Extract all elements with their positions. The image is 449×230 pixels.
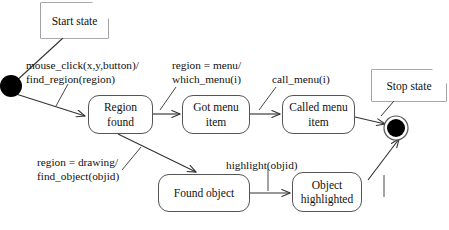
initial-state-node[interactable] xyxy=(0,75,22,97)
transition-label-region-found-to-got-menu-item: region = menu/ which_menu(i) xyxy=(172,58,241,86)
state-called-menu-item-label: Called menu item xyxy=(289,100,347,128)
stop-state-note: Stop state xyxy=(372,70,446,101)
state-region-found[interactable]: Region found xyxy=(88,95,153,134)
transition-initial-to-region-found xyxy=(16,84,85,116)
stop-state-note-label: Stop state xyxy=(372,80,446,92)
state-region-found-label: Region found xyxy=(104,100,137,128)
transition-label-initial-to-region-found: mouse_click(x,y,button)/ find_region(reg… xyxy=(26,58,139,86)
transition-got-menu-item-to-called-menu-item xyxy=(250,87,280,114)
final-state-node[interactable] xyxy=(384,116,408,140)
state-object-highlighted-label: Object highlighted xyxy=(301,178,353,206)
state-found-object[interactable]: Found object xyxy=(158,174,250,212)
note-anchor-stop xyxy=(381,101,394,116)
transition-region-found-to-got-menu-item xyxy=(153,87,180,114)
start-state-note: Start state xyxy=(41,3,108,38)
state-got-menu-item[interactable]: Got menu item xyxy=(182,95,250,134)
state-called-menu-item[interactable]: Called menu item xyxy=(282,95,355,134)
state-diagram-canvas: Start state Stop state Region found Got … xyxy=(0,0,449,230)
transition-called-menu-item-to-final xyxy=(355,117,385,124)
state-got-menu-item-label: Got menu item xyxy=(193,100,239,128)
transition-label-found-object-to-object-highlighted: highlight(objid) xyxy=(226,158,298,172)
transition-label-region-found-to-found-object: region = drawing/ find_object(objid) xyxy=(37,155,119,183)
state-object-highlighted[interactable]: Object highlighted xyxy=(292,172,362,212)
state-found-object-label: Found object xyxy=(174,186,234,200)
transition-found-object-to-object-highlighted xyxy=(250,169,290,193)
transition-label-got-menu-item-to-called-menu-item: call_menu(i) xyxy=(272,72,330,86)
transition-region-found-to-found-object xyxy=(118,134,196,172)
start-state-note-label: Start state xyxy=(41,15,108,27)
transition-object-highlighted-to-final xyxy=(368,139,399,197)
